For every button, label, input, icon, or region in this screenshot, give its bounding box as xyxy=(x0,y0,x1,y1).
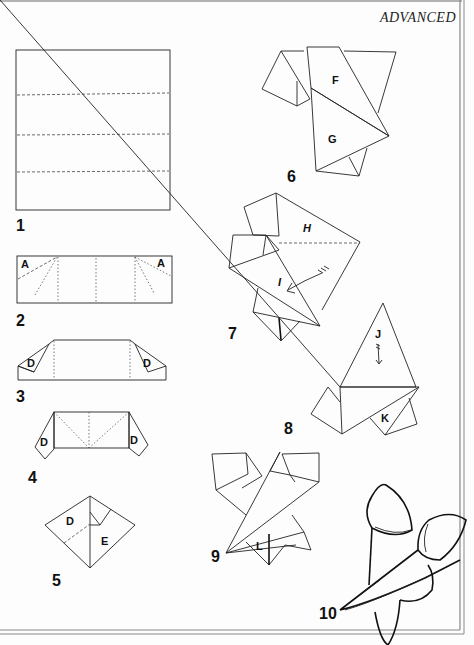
step-number-8: 8 xyxy=(284,420,293,438)
step-5-drawing xyxy=(45,496,135,568)
step-9-drawing xyxy=(212,452,319,565)
step-number-3: 3 xyxy=(16,388,25,406)
step-number-6: 6 xyxy=(287,168,296,186)
fold-label-h: H xyxy=(303,222,311,234)
fold-label-k: K xyxy=(381,412,389,424)
step-2-drawing xyxy=(17,256,172,303)
fold-label-i: I xyxy=(278,276,281,288)
step-number-1: 1 xyxy=(16,217,25,235)
step-7-drawing xyxy=(229,193,360,341)
fold-label-g: G xyxy=(328,133,337,145)
fold-label-d-right-step3: D xyxy=(143,357,151,369)
step-number-10: 10 xyxy=(319,605,337,623)
step-8-drawing xyxy=(0,0,419,435)
step-1-drawing xyxy=(16,50,170,210)
fold-label-l: L xyxy=(256,540,263,552)
fold-label-d-right-step4: D xyxy=(130,434,138,446)
step-number-9: 9 xyxy=(211,548,220,566)
fold-label-d-left-step3: D xyxy=(27,357,35,369)
fold-label-e-step5: E xyxy=(101,535,108,547)
fold-label-a-right: A xyxy=(157,257,165,269)
step-6-drawing xyxy=(262,47,396,176)
step-number-5: 5 xyxy=(52,572,61,590)
step-number-7: 7 xyxy=(228,325,237,343)
step-10-drawing xyxy=(340,484,466,645)
diagram-page: ADVANCED xyxy=(0,0,474,645)
fold-label-j: J xyxy=(375,328,381,340)
fold-label-f: F xyxy=(332,74,339,86)
folding-diagrams xyxy=(0,0,474,645)
step-number-2: 2 xyxy=(16,312,25,330)
fold-label-d-step5: D xyxy=(66,515,74,527)
fold-label-d-left-step4: D xyxy=(40,436,48,448)
step-number-4: 4 xyxy=(28,469,37,487)
fold-label-a-left: A xyxy=(21,258,29,270)
